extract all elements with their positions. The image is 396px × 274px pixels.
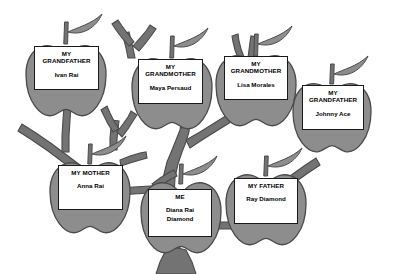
label-box-grandfather-paternal-maternal[interactable]: MY GRANDFATHERIvan Rai: [34, 46, 99, 90]
twig-fork-mid-left-arm-b: [117, 111, 137, 137]
person-name: Ivan Rai: [55, 71, 79, 79]
person-name: Maya Persaud: [150, 84, 192, 92]
apple-stem: [254, 34, 258, 56]
leaf-icon: [183, 156, 217, 175]
relationship-title: MY GRANDFATHER: [309, 89, 357, 104]
relationship-title: MY GRANDFATHER: [42, 50, 90, 65]
label-box-me[interactable]: MEDiana Rai Diamond: [148, 189, 212, 237]
person-name: Diana Rai Diamond: [166, 206, 194, 222]
label-box-grandmother-maternal[interactable]: MY GRANDMOTHERMaya Persaud: [138, 59, 203, 104]
relationship-title: MY MOTHER: [71, 169, 110, 176]
twig-fork-mid-left-arm-a: [101, 106, 119, 132]
relationship-title: MY GRANDMOTHER: [145, 63, 196, 78]
label-box-mother[interactable]: MY MOTHERAnna Rai: [58, 165, 123, 210]
person-name: Lisa Morales: [237, 81, 275, 89]
twig-fork-upper-left-arm-a: [112, 20, 134, 46]
person-name: Johnny Ace: [316, 110, 351, 118]
leaf-icon: [174, 28, 208, 47]
relationship-title: MY FATHER: [248, 182, 284, 189]
leaf-icon: [334, 56, 368, 75]
family-tree-diagram: MY GRANDFATHERIvan RaiMY GRANDMOTHERMaya…: [0, 0, 396, 274]
person-name: Ray Diamond: [246, 195, 286, 203]
apple-stem: [170, 36, 174, 58]
apple-stem: [64, 22, 68, 44]
leaf-icon: [258, 26, 292, 45]
twig-fork-top-right-arm-a: [232, 34, 244, 58]
person-name: Anna Rai: [77, 182, 104, 190]
leaf-icon: [92, 136, 126, 155]
twig-stub-mother: [120, 152, 147, 166]
label-box-grandfather-paternal[interactable]: MY GRANDFATHERJohnny Ace: [302, 85, 364, 130]
label-box-father[interactable]: MY FATHERRay Diamond: [234, 178, 298, 224]
twig-fork-upper-left-arm-b: [133, 25, 156, 51]
leaf-icon: [68, 14, 102, 33]
leaf-icon: [268, 148, 302, 167]
relationship-title: ME: [175, 193, 184, 200]
label-box-grandmother-paternal[interactable]: MY GRANDMOTHERLisa Morales: [224, 56, 288, 100]
relationship-title: MY GRANDMOTHER: [231, 60, 282, 75]
